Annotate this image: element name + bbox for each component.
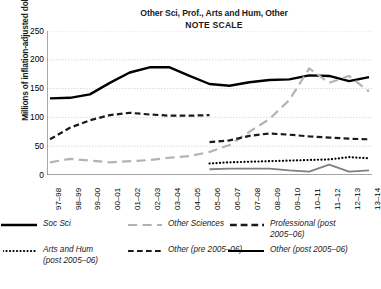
y-tick-label: 250 (20, 26, 44, 36)
chart-subtitle: NOTE SCALE (47, 20, 381, 30)
x-tick-label: 08–09 (273, 188, 282, 210)
series-line-4 (50, 113, 210, 140)
x-tick-label: 10–11 (313, 188, 322, 210)
legend-label-line2: (post 2005–06) (43, 256, 98, 267)
legend-item-other-post[interactable]: Other (post 2005–06) (270, 245, 348, 256)
axis-lines (47, 31, 372, 175)
series-line-0 (50, 67, 369, 98)
x-tick-label: 99–00 (93, 188, 102, 210)
series-line-3 (210, 157, 370, 163)
x-tick-label: 00–01 (113, 188, 122, 210)
x-tick-label: 11–12 (333, 188, 342, 210)
legend-label: Other Sciences (168, 219, 224, 230)
chart-title: Other Sci, Prof., Arts and Hum, Other (47, 8, 381, 18)
plot-area (47, 31, 372, 175)
x-tick-label: 13–14 (373, 188, 381, 210)
legend-label-line2: 2005–06) (270, 230, 336, 241)
legend-swatch-other-pre (128, 247, 162, 255)
x-tick-label: 02–03 (153, 188, 162, 210)
legend-label: Professional (post (270, 219, 336, 230)
y-tick-label: 200 (20, 54, 44, 64)
y-tick-label: 0 (20, 170, 44, 180)
y-tick-label: 100 (20, 112, 44, 122)
chart-legend: Soc SciOther SciencesProfessional (post2… (0, 219, 381, 289)
legend-item-professional[interactable]: Professional (post2005–06) (270, 219, 336, 240)
legend-swatch-professional (230, 221, 264, 229)
series-line-2 (210, 134, 370, 143)
chart-figure: Other Sci, Prof., Arts and Hum, Other NO… (0, 0, 381, 289)
y-tick-label: 150 (20, 83, 44, 93)
x-tick-label: 97–98 (54, 188, 63, 210)
legend-item-soc-sci[interactable]: Soc Sci (43, 219, 71, 230)
x-tick-label: 04–05 (193, 188, 202, 210)
legend-label: Soc Sci (43, 219, 71, 230)
legend-item-other-sciences[interactable]: Other Sciences (168, 219, 224, 230)
x-tick-label: 03–04 (173, 188, 182, 210)
x-tick-label: 06–07 (233, 188, 242, 210)
legend-swatch-arts-and-hum (3, 247, 37, 255)
series-line-5 (210, 165, 370, 172)
legend-item-arts-and-hum[interactable]: Arts and Hum(post 2005–06) (43, 245, 98, 266)
y-tick-label: 50 (20, 141, 44, 151)
x-tick-label: 12–13 (353, 188, 362, 210)
x-tick-label: 05–06 (213, 188, 222, 210)
y-axis-ticks: 050100150200250 (18, 31, 44, 175)
legend-swatch-soc-sci (1, 221, 37, 229)
x-tick-label: 01–02 (133, 188, 142, 210)
legend-label: Arts and Hum (43, 245, 98, 256)
legend-swatch-other-sciences (128, 221, 162, 229)
x-tick-label: 07–08 (253, 188, 262, 210)
legend-swatch-other-post (228, 247, 264, 255)
x-axis-ticks: 97–9898–9999–0000–0101–0202–0303–0404–05… (47, 176, 372, 214)
x-tick-label: 09–10 (293, 188, 302, 210)
legend-label: Other (post 2005–06) (270, 245, 348, 256)
series-canvas (47, 31, 372, 175)
x-tick-label: 98–99 (74, 188, 83, 210)
